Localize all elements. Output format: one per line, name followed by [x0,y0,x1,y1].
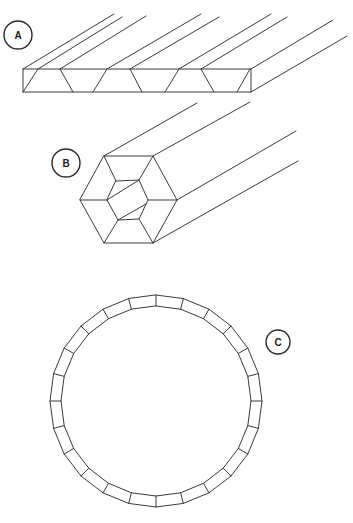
ring-segment-divider [64,449,74,455]
ring-segment-divider [238,348,248,354]
ring-segment-divider [223,326,231,334]
ring-segment-divider [54,374,65,377]
ring-segment-divider [81,468,89,476]
figure-b-hex-prism [80,102,298,243]
ring-segment-divider [248,374,259,377]
ring-segment-divider [204,483,210,493]
ring-segment-divider [103,309,109,319]
ring-segment-divider [238,449,248,455]
ring-segment-divider [129,493,132,504]
figure-c-segmented-ring [50,295,262,507]
ring-segment-divider [54,426,65,429]
label-c-text: C [274,337,281,348]
figure-a-slab [23,14,347,92]
ring-segment-divider [103,483,109,493]
diagram-canvas: A B C [0,0,353,523]
ring-segment-divider [81,326,89,334]
ring-segment-divider [181,299,184,310]
label-a-text: A [14,30,21,41]
ring-segment-divider [129,299,132,310]
label-b-text: B [62,158,69,169]
slab-front-face [23,69,251,92]
ring-segment-divider [204,309,210,319]
ring-inner-edge [61,306,251,496]
label-a: A [4,21,32,49]
label-b: B [52,149,80,177]
ring-segment-divider [223,468,231,476]
ring-segment-divider [248,426,259,429]
label-c: C [266,330,290,354]
ring-segment-divider [181,493,184,504]
ring-segment-divider [64,348,74,354]
